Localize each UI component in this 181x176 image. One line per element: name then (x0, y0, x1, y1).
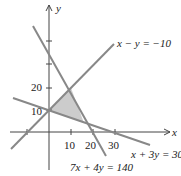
line-7x-plus-4y (33, 26, 106, 156)
line-x-minus-y (11, 44, 114, 149)
label-eq1: x − y = −10 (116, 37, 172, 49)
x-tick-30: 30 (108, 139, 120, 151)
x-tick-10: 10 (64, 139, 76, 151)
y-axis-label: y (55, 2, 61, 14)
label-eq2: 7x + 4y = 140 (70, 161, 134, 173)
feasible-region-graph: y x 20 10 10 20 30 x − y = −10 x + 3y = … (0, 0, 181, 176)
x-axis-label: x (171, 126, 177, 138)
x-tick-20: 20 (85, 139, 97, 151)
label-eq3: x + 3y = 30 (130, 148, 181, 160)
y-tick-10: 10 (31, 105, 43, 117)
y-tick-20: 20 (31, 81, 43, 93)
